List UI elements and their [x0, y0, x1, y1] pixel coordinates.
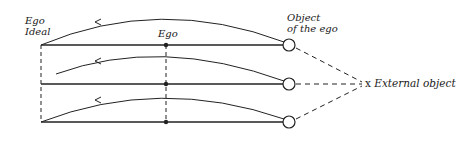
dashed-link-to-external	[296, 48, 362, 82]
ego-point	[164, 43, 168, 47]
ego-label: Ego	[158, 28, 178, 39]
external-object-label: x External object	[365, 78, 456, 89]
object-label-line2: of the ego	[287, 23, 338, 34]
ego-point	[164, 120, 168, 124]
arrow-icon	[95, 97, 101, 103]
external-marker: x	[365, 77, 371, 89]
ego-ideal-label-line2: Ideal	[25, 26, 50, 37]
object-label-line1: Object	[287, 12, 338, 23]
row-3-arc	[41, 98, 284, 122]
diagram-graphics	[0, 0, 458, 150]
object-circle	[283, 116, 295, 128]
external-object-text: External object	[374, 77, 455, 89]
object-circle	[283, 78, 295, 90]
ego-ideal-label: Ego Ideal	[25, 15, 50, 37]
ego-ideal-label-line1: Ego	[25, 15, 50, 26]
object-of-ego-label: Object of the ego	[287, 12, 338, 34]
object-circle	[283, 39, 295, 51]
ego-ideal-diagram: Ego Ideal Ego Object of the ego x Extern…	[0, 0, 458, 150]
ego-point	[164, 82, 168, 86]
arrow-icon	[95, 19, 101, 25]
dashed-link-to-external	[296, 86, 362, 119]
row-2-arc	[56, 57, 284, 81]
